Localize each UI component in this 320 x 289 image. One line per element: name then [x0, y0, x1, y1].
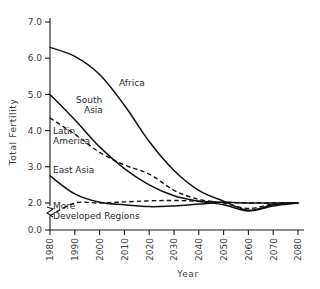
chart-canvas: 0.02.03.04.05.06.07.0 198019902000201020…	[0, 0, 320, 289]
y-tick-label: 7.0	[28, 17, 43, 27]
y-tick-label: 3.0	[28, 162, 43, 172]
x-axis-title: Year	[176, 269, 198, 279]
series-label-africa: Africa	[119, 78, 145, 88]
series-inline-labels: AfricaSouthAsiaLatinAmericaEast AsiaMore…	[53, 78, 145, 221]
x-tick-label: 2050	[219, 238, 229, 261]
x-tick-label: 2060	[244, 238, 254, 261]
y-axis-title: Total Fertility	[8, 99, 18, 167]
y-tick-label: 4.0	[28, 126, 43, 136]
x-tick-label: 2040	[194, 238, 204, 261]
series-label-latin-america: America	[53, 136, 90, 146]
fertility-chart-figure: 0.02.03.04.05.06.07.0 198019902000201020…	[0, 0, 320, 289]
y-tick-label: 6.0	[28, 53, 43, 63]
series-label-latin-america: Latin	[53, 126, 75, 136]
x-tick-label: 2070	[269, 238, 279, 261]
y-tick-label: 5.0	[28, 90, 43, 100]
series-label-more-developed-regions: More	[53, 201, 76, 211]
y-tick-label: 0.0	[28, 225, 43, 235]
x-tick-label: 1990	[70, 238, 80, 261]
x-tick-label: 2020	[145, 238, 155, 261]
x-tick-label: 2030	[169, 238, 179, 261]
x-tick-label: 2080	[293, 238, 303, 261]
series-curve-latin-america	[50, 118, 298, 209]
series-label-east-asia: East Asia	[53, 165, 94, 175]
series-label-more-developed-regions: Developed Regions	[53, 211, 140, 221]
data-series-curves	[50, 47, 298, 215]
series-label-south-asia: Asia	[84, 105, 103, 115]
series-label-south-asia: South	[76, 95, 102, 105]
x-tick-label: 2000	[95, 238, 105, 261]
x-tick-label: 1980	[45, 238, 55, 261]
y-tick-labels: 0.02.03.04.05.06.07.0	[28, 17, 43, 235]
series-curve-africa	[50, 47, 298, 210]
x-tick-labels: 1980199020002010202020302040205020602070…	[45, 238, 303, 261]
x-tick-label: 2010	[120, 238, 130, 261]
y-tick-label: 2.0	[28, 198, 43, 208]
